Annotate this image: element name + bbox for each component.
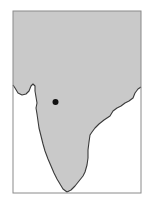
location-marker-dot[interactable] bbox=[53, 99, 59, 105]
landmass bbox=[13, 11, 141, 192]
map-canvas bbox=[0, 0, 148, 209]
